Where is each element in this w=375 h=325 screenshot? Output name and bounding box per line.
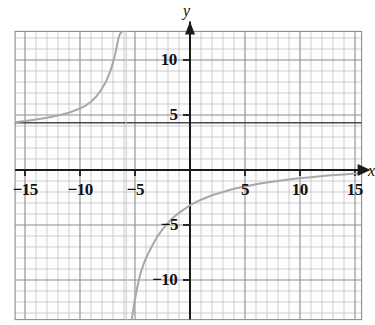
y-tick-label--5: −5 <box>161 216 178 233</box>
x-tick-label--10: −10 <box>68 181 93 198</box>
minor-gridlines <box>15 31 362 319</box>
y-tick-label-5: 5 <box>169 106 177 123</box>
x-tick-label-10: 10 <box>292 181 308 198</box>
graph-figure: −15−10−551015105−5−10 y x <box>0 0 375 325</box>
x-tick-label-15: 15 <box>347 181 363 198</box>
y-tick-label--10: −10 <box>152 271 177 288</box>
y-tick-label-10: 10 <box>161 51 177 68</box>
x-axis-label: x <box>368 163 375 179</box>
coordinate-plane <box>0 0 375 325</box>
y-axis-label: y <box>183 3 190 19</box>
x-tick-label--5: −5 <box>127 181 144 198</box>
x-tick-label--15: −15 <box>13 181 38 198</box>
x-tick-label-5: 5 <box>241 181 249 198</box>
